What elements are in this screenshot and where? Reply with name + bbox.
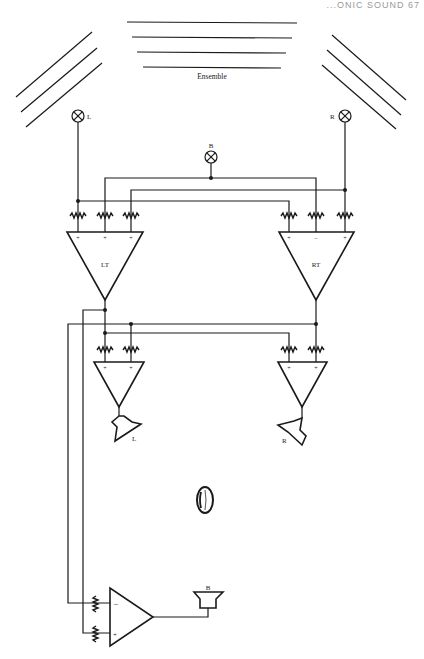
rt-label: RT	[312, 261, 321, 269]
left-out-resistors	[97, 347, 139, 352]
speaker-l-label: L	[132, 435, 136, 443]
amplifier-lt: + + + LT	[67, 232, 143, 300]
microphone-l-label: L	[87, 113, 91, 121]
speaker-r-icon: R	[278, 418, 306, 445]
right-out-resistors	[281, 347, 324, 352]
microphone-r: R	[330, 110, 351, 122]
rt-input-resistors	[281, 213, 353, 218]
speaker-b-icon: B	[194, 584, 223, 608]
amplifier-left-out: + +	[94, 362, 144, 416]
microphone-r-label: R	[330, 113, 335, 121]
speaker-b-label: B	[206, 584, 211, 592]
bass-input-plus-sign: +	[113, 631, 117, 639]
amplifier-rt: + – + RT	[279, 232, 354, 300]
microphone-b: B	[205, 142, 217, 163]
mic-wiring	[76, 122, 347, 232]
speaker-r-label: R	[282, 437, 287, 445]
amplifier-right-out: + +	[278, 362, 327, 418]
speaker-l-icon: L	[112, 416, 141, 443]
microphone-l: L	[72, 110, 91, 122]
matrix-circuit-diagram: Ensemble L R B	[0, 0, 424, 659]
listener-head-icon	[197, 487, 213, 513]
ensemble-label: Ensemble	[197, 72, 227, 81]
ensemble-stage: Ensemble	[127, 22, 297, 81]
lt-label: LT	[101, 261, 110, 269]
amplifier-bass: – +	[110, 588, 208, 646]
microphone-b-label: B	[209, 142, 214, 150]
